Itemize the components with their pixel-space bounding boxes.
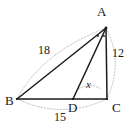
measure-label-angle-x: x [86, 79, 91, 90]
vertex-dot-b [16, 98, 18, 100]
vertex-label-d: D [68, 101, 77, 114]
geometry-figure: A B D C 18 12 15 x [0, 0, 131, 129]
angle-mark-1-icon [97, 35, 99, 37]
vertex-label-c: C [112, 101, 121, 114]
segment-ac [106, 28, 107, 99]
measure-label-bc: 15 [54, 111, 66, 123]
vertex-label-b: B [5, 94, 14, 107]
vertex-label-a: A [97, 5, 106, 18]
guide-arc-bc [17, 99, 107, 110]
vertex-dot-a [105, 27, 108, 30]
measure-label-ab: 18 [38, 44, 50, 56]
segment-ab [17, 28, 106, 99]
measure-label-ac: 12 [112, 47, 124, 59]
vertex-dot-c [106, 98, 108, 100]
angle-mark-2-icon [103, 35, 105, 37]
